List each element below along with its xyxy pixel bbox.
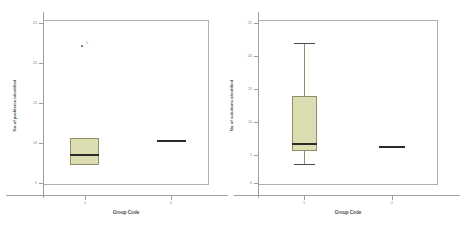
plot-frame xyxy=(43,20,209,185)
y-tick-mark xyxy=(39,183,43,184)
boxplot-flatline-group2 xyxy=(157,140,186,142)
y-tick-mark xyxy=(39,23,43,24)
y-tick-label: 25 xyxy=(26,21,37,25)
y-tick-mark xyxy=(39,63,43,64)
x-axis-title: Group Code xyxy=(335,210,362,215)
x-axis-line xyxy=(234,195,460,196)
y-tick-mark xyxy=(254,56,258,57)
y-tick-mark xyxy=(254,183,258,184)
x-axis-line xyxy=(6,195,228,196)
y-tick-label: 20 xyxy=(26,61,37,65)
y-tick-mark xyxy=(254,23,258,24)
boxplot-median-group1 xyxy=(70,154,99,156)
y-tick-label: 0 xyxy=(241,181,252,185)
boxplot-outlier-label: 1 xyxy=(86,41,88,45)
x-tick-mark xyxy=(304,196,305,200)
x-tick-mark xyxy=(392,196,393,200)
plot-frame xyxy=(258,20,438,185)
y-tick-label: 5 xyxy=(26,181,37,185)
y-tick-label: 5 xyxy=(241,153,252,157)
x-tick-mark xyxy=(171,196,172,200)
x-tick-label: 2 xyxy=(170,201,172,205)
y-axis-title: No of problems identified xyxy=(12,58,17,154)
x-tick-label: 1 xyxy=(84,201,86,205)
boxplot-flatline-group2 xyxy=(379,146,405,148)
boxplot-box-group1 xyxy=(70,138,99,165)
y-tick-mark xyxy=(39,143,43,144)
boxplot-median-group1 xyxy=(292,143,317,145)
y-axis-line xyxy=(43,12,44,198)
x-axis-title: Group Code xyxy=(113,210,140,215)
boxplot-whisker-cap-upper-group1 xyxy=(294,43,315,44)
y-tick-mark xyxy=(254,122,258,123)
y-tick-label: 20 xyxy=(241,54,252,58)
boxplot-figure: 25 20 15 10 5 1 2 1 No of problems ident… xyxy=(0,0,464,231)
boxplot-whisker-lower-group1 xyxy=(304,151,305,164)
x-tick-mark xyxy=(85,196,86,200)
x-tick-label: 2 xyxy=(391,201,393,205)
y-tick-label: 15 xyxy=(26,101,37,105)
boxplot-whisker-cap-lower-group1 xyxy=(294,164,315,165)
y-tick-label: 25 xyxy=(241,21,252,25)
y-tick-label: 15 xyxy=(241,87,252,91)
y-tick-mark xyxy=(39,103,43,104)
y-axis-title: No of solutions identified xyxy=(229,58,234,154)
y-tick-label: 10 xyxy=(241,120,252,124)
x-tick-label: 1 xyxy=(303,201,305,205)
y-tick-mark xyxy=(254,89,258,90)
panel-solutions: 25 20 15 10 5 0 1 2 No of solutions iden… xyxy=(232,0,464,231)
boxplot-whisker-upper-group1 xyxy=(304,43,305,96)
panel-problems: 25 20 15 10 5 1 2 1 No of problems ident… xyxy=(0,0,232,231)
y-axis-line xyxy=(258,12,259,198)
y-tick-mark xyxy=(254,155,258,156)
y-tick-label: 10 xyxy=(26,141,37,145)
